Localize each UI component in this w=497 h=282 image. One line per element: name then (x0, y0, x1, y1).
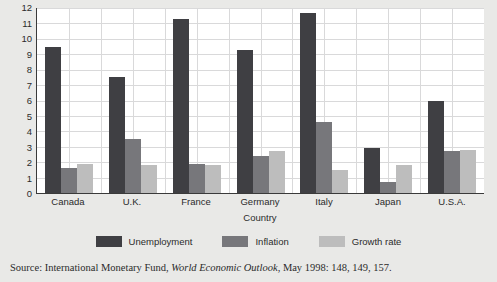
bar-group (37, 8, 101, 193)
bar (125, 139, 141, 193)
legend-label: Inflation (255, 236, 288, 247)
bar (61, 168, 77, 193)
bar-groups (37, 8, 484, 193)
y-tick-label: 3 (16, 143, 32, 153)
y-tick-label: 9 (16, 50, 32, 60)
legend-swatch (96, 236, 122, 247)
figure: Percentage 0123456789101112 CanadaU.K.Fr… (0, 0, 497, 282)
y-tick-label: 5 (16, 112, 32, 122)
legend-item: Growth rate (319, 236, 402, 247)
bar-group (229, 8, 293, 193)
bar (109, 77, 125, 193)
plot-area (36, 8, 484, 194)
bar (428, 101, 444, 194)
bar (332, 170, 348, 193)
bar (316, 122, 332, 193)
y-tick-label: 1 (16, 174, 32, 184)
y-tick-label: 8 (16, 65, 32, 75)
bar-group (165, 8, 229, 193)
source-title: World Economic Outlook (171, 262, 277, 273)
x-axis-title: Country (36, 212, 484, 223)
x-tick-label: U.K. (100, 196, 164, 207)
x-axis-tick-labels: CanadaU.K.FranceGermanyItalyJapanU.S.A. (36, 196, 484, 207)
bar (205, 165, 221, 193)
bar (253, 156, 269, 193)
x-tick-label: Japan (356, 196, 420, 207)
y-tick-label: 2 (16, 158, 32, 168)
x-tick-label: U.S.A. (420, 196, 484, 207)
bar (380, 182, 396, 193)
y-tick-label: 12 (16, 3, 32, 13)
x-tick-label: Canada (36, 196, 100, 207)
y-tick-label: 10 (16, 34, 32, 44)
y-tick-label: 0 (16, 189, 32, 199)
legend: UnemploymentInflationGrowth rate (0, 236, 497, 247)
bar-group (420, 8, 484, 193)
bar-group (356, 8, 420, 193)
x-tick-label: France (164, 196, 228, 207)
legend-item: Unemployment (96, 236, 193, 247)
legend-item: Inflation (222, 236, 288, 247)
bar (300, 13, 316, 193)
y-tick-label: 4 (16, 127, 32, 137)
x-tick-label: Germany (228, 196, 292, 207)
bar (173, 19, 189, 193)
bar-group (292, 8, 356, 193)
bar (460, 150, 476, 193)
bar (364, 148, 380, 193)
chart-area: Percentage 0123456789101112 (36, 8, 484, 194)
y-tick-label: 7 (16, 81, 32, 91)
bar (45, 47, 61, 193)
source-prefix: Source: International Monetary Fund, (10, 262, 169, 273)
y-axis-tick-labels: 0123456789101112 (16, 8, 32, 194)
bar (444, 151, 460, 193)
legend-swatch (319, 236, 345, 247)
bar (189, 164, 205, 193)
x-tick-label: Italy (292, 196, 356, 207)
y-tick-label: 11 (16, 19, 32, 29)
bar-group (101, 8, 165, 193)
bar (77, 164, 93, 193)
bar (269, 151, 285, 193)
legend-label: Unemployment (129, 236, 193, 247)
bar (237, 50, 253, 193)
legend-label: Growth rate (352, 236, 402, 247)
y-tick-label: 6 (16, 96, 32, 106)
bar (396, 165, 412, 193)
bar (141, 165, 157, 193)
legend-swatch (222, 236, 248, 247)
source-suffix: , May 1998: 148, 149, 157. (278, 262, 392, 273)
source-note: Source: International Monetary Fund, Wor… (10, 262, 490, 273)
